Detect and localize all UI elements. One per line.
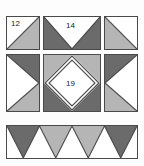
top-right-patches [105,17,137,49]
block-middle-left-flying-geese [6,54,40,112]
block-center-square-in-a-square [43,54,101,112]
block-bottom-sawtooth-strip [6,125,138,159]
center-patches [44,55,100,111]
middle-left-patches [7,55,39,111]
block-middle-right-flying-geese [104,54,138,112]
block-top-left-square [6,16,40,50]
top-left-patches [7,17,39,49]
block-top-right-square [104,16,138,50]
quilt-block-diagram: 12 14 19 [0,0,144,166]
top-center-patches [44,17,100,49]
middle-right-patches [105,55,137,111]
bottom-strip-patches [7,126,137,158]
block-top-center-flying-geese [43,16,101,50]
